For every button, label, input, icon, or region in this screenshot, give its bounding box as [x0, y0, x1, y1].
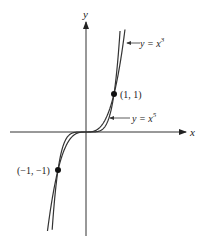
point-neg1-label: (−1, −1) — [17, 165, 50, 177]
x-axis-label: x — [189, 126, 195, 138]
fifth-label: y = x5 — [131, 111, 157, 124]
graph: x y (1, 1) (−1, −1) y = x3 y = x5 — [0, 0, 203, 246]
y-axis-label: y — [82, 8, 88, 20]
point-1-1-label: (1, 1) — [120, 89, 142, 101]
cube-label: y = x3 — [139, 36, 165, 49]
point-neg1-neg1 — [55, 167, 61, 173]
point-1-1 — [111, 91, 117, 97]
